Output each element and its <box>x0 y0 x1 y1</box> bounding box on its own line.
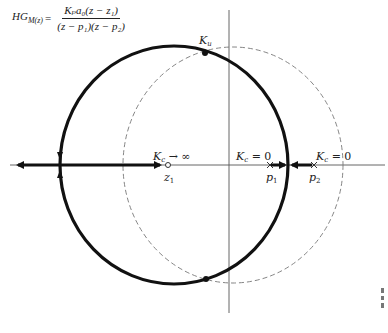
p1-label: p1 <box>266 171 278 185</box>
kc-zero-label-p2: Kc = 0 <box>315 150 351 164</box>
ku-point-lower <box>203 276 209 282</box>
zero-z1-marker <box>166 163 171 168</box>
ku-point-upper <box>202 50 208 56</box>
kc-infinity-label: Kc → ∞ <box>152 150 191 164</box>
arrow-down-icon <box>57 152 63 160</box>
p2-label: p2 <box>309 171 321 185</box>
ku-label: Ku <box>198 34 212 48</box>
arrow-up-icon <box>57 170 63 178</box>
page-edge-marks <box>381 288 385 308</box>
root-locus-diagram: Ku Kc → ∞ Kc = 0 Kc = 0 z1 p1 p2 <box>0 0 388 333</box>
z1-label: z1 <box>163 171 174 185</box>
kc-zero-label-p1: Kc = 0 <box>235 150 271 164</box>
